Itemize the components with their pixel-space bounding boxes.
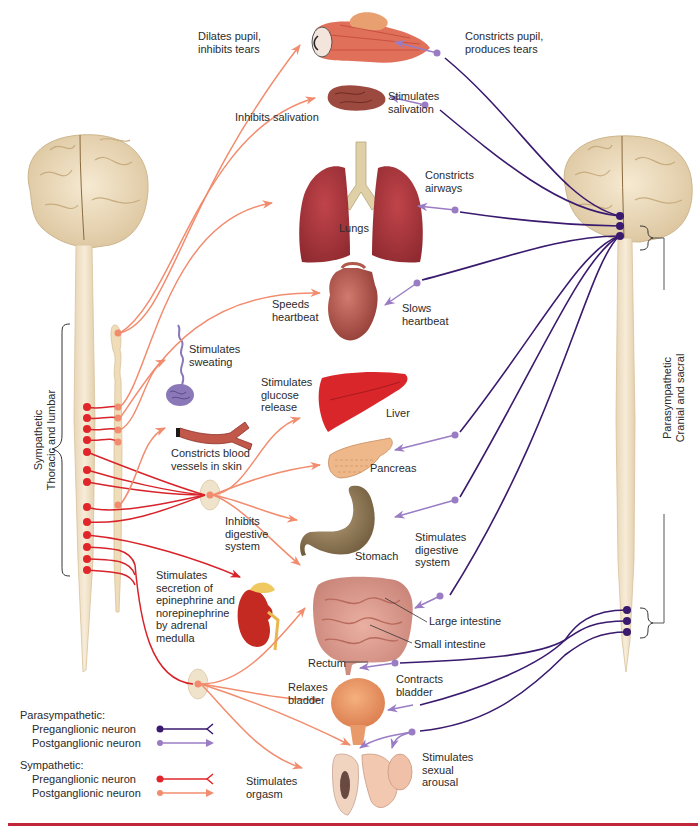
- label-para-airways: Constricts airways: [425, 169, 474, 194]
- legend-sym-post-label: Postganglionic neuron: [32, 786, 156, 800]
- legend-sym-post: Postganglionic neuron: [20, 786, 216, 800]
- label-sympathetic-division: Sympathetic Thoracic and lumbar: [32, 375, 58, 505]
- label-para-eye: Constricts pupil, produces tears: [465, 30, 543, 55]
- sympathetic-chain: [111, 325, 122, 612]
- legend-sym-pre-label: Preganglionic neuron: [32, 772, 156, 786]
- label-liver: Liver: [386, 407, 410, 420]
- para-post-swatch-icon: [156, 737, 216, 749]
- left-spinal-cord: [74, 245, 95, 672]
- sym-post-swatch-icon: [156, 787, 216, 799]
- salivary-gland-organ: [328, 85, 386, 110]
- label-para-heart: Slows heartbeat: [402, 302, 448, 327]
- stomach-organ: [300, 486, 375, 556]
- label-parasympathetic-division: Parasympathetic Cranial and sacral: [661, 333, 687, 463]
- blood-vessel-organ: [176, 422, 252, 450]
- label-pancreas: Pancreas: [370, 462, 416, 475]
- label-para-salivary: Stimulates salivation: [388, 90, 439, 115]
- legend-sympathetic: Sympathetic: Preganglionic neuron Postga…: [20, 758, 216, 800]
- lungs-organ: [299, 142, 423, 263]
- legend-para-pre-label: Preganglionic neuron: [32, 722, 156, 736]
- legend-para-post: Postganglionic neuron: [20, 736, 216, 750]
- label-small-intestine: Small intestine: [414, 638, 486, 651]
- label-sym-liver: Stimulates glucose release: [261, 376, 312, 414]
- legend-para-post-label: Postganglionic neuron: [32, 736, 156, 750]
- label-sym-genital: Stimulates orgasm: [246, 775, 297, 800]
- label-sym-eye: Dilates pupil, inhibits tears: [198, 30, 261, 55]
- legend-sym-pre: Preganglionic neuron: [20, 772, 216, 786]
- bottom-rule: [8, 823, 698, 826]
- label-para-bladder: Contracts bladder: [396, 673, 443, 698]
- label-lungs: Lungs: [339, 222, 369, 235]
- eye-organ: [312, 12, 430, 62]
- label-stomach: Stomach: [355, 550, 398, 563]
- legend: Parasympathetic: Preganglionic neuron Po…: [20, 708, 216, 808]
- sym-pre-swatch-icon: [156, 773, 216, 785]
- legend-para-pre: Preganglionic neuron: [20, 722, 216, 736]
- ans-diagram: Dilates pupil, inhibits tears Inhibits s…: [0, 0, 698, 835]
- para-pre-swatch-icon: [156, 723, 216, 735]
- heart-organ: [328, 264, 378, 341]
- bladder-organ: [331, 678, 385, 745]
- label-sym-digestive: Inhibits digestive system: [225, 515, 268, 553]
- legend-parasympathetic: Parasympathetic: Preganglionic neuron Po…: [20, 708, 216, 750]
- label-rectum: Rectum: [308, 657, 346, 670]
- label-sym-heart: Speeds heartbeat: [272, 298, 318, 323]
- sacral-brace: [640, 608, 653, 638]
- label-sym-adrenal: Stimulates secretion of epinephrine and …: [156, 569, 235, 644]
- label-sym-bladder: Relaxes bladder: [288, 681, 328, 706]
- adrenal-kidney-organ: [238, 583, 278, 651]
- label-para-digestive: Stimulates digestive system: [415, 531, 466, 569]
- label-sym-vessels: Constricts blood vessels in skin: [171, 447, 250, 472]
- left-brain: [28, 135, 148, 248]
- legend-sym-title: Sympathetic:: [20, 758, 216, 772]
- label-sym-salivary: Inhibits salivation: [235, 111, 319, 124]
- label-para-genital: Stimulates sexual arousal: [422, 751, 473, 789]
- genitalia-organ: [332, 754, 412, 815]
- label-sym-sweat: Stimulates sweating: [189, 343, 240, 368]
- liver-organ: [319, 372, 408, 432]
- label-large-intestine: Large intestine: [429, 615, 501, 628]
- right-brain: [564, 136, 692, 242]
- legend-para-title: Parasympathetic:: [20, 708, 216, 722]
